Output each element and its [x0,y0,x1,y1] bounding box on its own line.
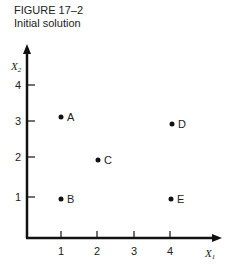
x-tick-label: 1 [58,245,64,257]
y-axis-title: X2 [10,60,22,74]
data-point-c: C [96,154,113,166]
y-tick-label: 3 [15,115,21,127]
x-tick-label: 4 [167,245,173,257]
svg-text:B: B [67,193,74,205]
x-tick-label: 2 [94,245,100,257]
svg-text:C: C [104,154,112,166]
scatter-chart: X2 X1 4 3 2 1 1 2 3 4 A B C D E [0,0,237,270]
y-tick-label: 4 [15,79,21,91]
svg-text:E: E [177,193,184,205]
y-tick-label: 1 [15,191,21,203]
x-tick-label: 3 [131,245,137,257]
x-axis-title: X1 [204,247,215,261]
svg-text:A: A [67,111,75,123]
y-tick-label: 2 [15,151,21,163]
data-point-a: A [59,111,76,123]
data-point-e: E [169,193,185,205]
svg-text:D: D [178,118,186,130]
data-point-d: D [170,118,187,130]
data-point-b: B [59,193,75,205]
